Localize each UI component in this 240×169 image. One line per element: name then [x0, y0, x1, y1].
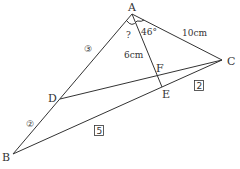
angle-46-label: 46°: [141, 27, 157, 37]
label-D: D: [48, 92, 57, 105]
segment-BC: [13, 60, 222, 154]
ratio-BE-label: 5: [97, 126, 103, 136]
ratio-AD-label: ③: [84, 44, 92, 54]
unknown-angle-label: ?: [126, 30, 131, 40]
length-AC-label: 10cm: [182, 28, 207, 38]
label-C: C: [227, 55, 235, 68]
ratio-DB-label: ②: [26, 119, 34, 129]
segment-AC: [132, 14, 222, 60]
label-F: F: [156, 62, 164, 75]
label-A: A: [127, 1, 137, 14]
length-AF-label: 6cm: [124, 50, 144, 60]
angle-arc-EAC: [137, 20, 144, 21]
triangle-diagram: A B C D E F ? 46° 10cm 6cm ③ ② 5 2: [0, 0, 240, 169]
label-E: E: [162, 88, 170, 101]
segment-DC: [60, 60, 222, 99]
label-B: B: [2, 151, 10, 164]
segment-AB: [13, 14, 132, 154]
ratio-EC-label: 2: [197, 81, 203, 91]
